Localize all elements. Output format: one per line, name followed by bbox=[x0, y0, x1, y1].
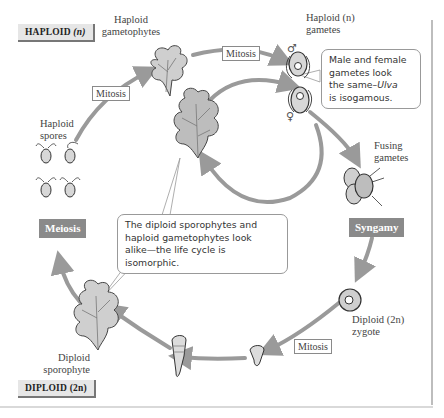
label-line: Haploid (n) bbox=[306, 12, 355, 24]
small-germling-icon bbox=[250, 346, 264, 366]
haploid-region-tag: HAPLOID (n) bbox=[18, 24, 95, 42]
callout-line: alike—the life cycle is isomorphic. bbox=[125, 244, 280, 269]
process-meiosis: Meiosis bbox=[39, 219, 86, 238]
arrow-germling-growth bbox=[180, 357, 245, 359]
callout-line: the same–Ulva bbox=[329, 79, 413, 92]
label-diploid-sporophyte: Diploid sporophyte bbox=[30, 352, 90, 376]
gametophyte-thallus-icon bbox=[151, 46, 187, 96]
label-line: Haploid bbox=[94, 14, 168, 26]
label-haploid-spores: Haploid spores bbox=[40, 118, 74, 142]
label-line: gametes bbox=[306, 24, 355, 36]
label-line: Haploid bbox=[40, 118, 74, 130]
haploid-label: HAPLOID bbox=[25, 27, 71, 37]
label-line: Diploid bbox=[30, 352, 90, 364]
process-mitosis-bottom: Mitosis bbox=[294, 339, 332, 354]
callout-italic-genus: Ulva bbox=[377, 79, 398, 90]
label-line: gametophytes bbox=[94, 26, 168, 38]
label-line: gametes bbox=[374, 152, 408, 164]
process-mitosis-left: Mitosis bbox=[92, 86, 130, 101]
zygote-icon bbox=[339, 289, 361, 311]
diploid-region-tag: DIPLOID (2n) bbox=[18, 380, 96, 398]
callout-isomorphic: The diploid sporophytes and haploid game… bbox=[117, 214, 288, 274]
callout-line: gametes look bbox=[329, 67, 413, 80]
callout-line: is isogamous. bbox=[329, 92, 413, 105]
label-haploid-gametes: Haploid (n) gametes bbox=[306, 12, 355, 36]
process-syngamy: Syngamy bbox=[349, 218, 404, 237]
callout-line: Male and female bbox=[329, 54, 413, 67]
label-line: Diploid (2n) bbox=[352, 314, 404, 326]
haploid-symbol: (n) bbox=[73, 27, 85, 37]
large-germling-icon bbox=[172, 336, 186, 377]
sporophyte-thallus-icon bbox=[74, 280, 118, 350]
callout-line: haploid gametophytes look bbox=[125, 232, 280, 245]
fusing-gametes-icon bbox=[344, 168, 384, 206]
haploid-spores-icon bbox=[36, 142, 80, 197]
arrow-to-zygote bbox=[360, 238, 372, 272]
arrow-to-fusing bbox=[310, 112, 355, 158]
label-diploid-zygote: Diploid (2n) zygote bbox=[352, 314, 404, 338]
label-line: zygote bbox=[352, 326, 404, 338]
process-mitosis-top: Mitosis bbox=[222, 46, 260, 61]
callout-line: The diploid sporophytes and bbox=[125, 219, 280, 232]
callout-isomorphic-pointer-top bbox=[162, 158, 180, 215]
male-symbol-icon: ♂ bbox=[287, 42, 297, 55]
diploid-label: DIPLOID bbox=[25, 383, 67, 393]
label-line: sporophyte bbox=[30, 364, 90, 376]
arrow-inner-loop-bottom bbox=[205, 125, 322, 202]
arrow-to-sporophyte bbox=[112, 310, 170, 348]
callout-isogamy: Male and female gametes look the same–Ul… bbox=[321, 49, 421, 109]
label-haploid-gametophytes: Haploid gametophytes bbox=[94, 14, 168, 38]
diploid-symbol: (2n) bbox=[70, 383, 87, 393]
label-fusing-gametes: Fusing gametes bbox=[374, 140, 408, 164]
label-line: Fusing bbox=[374, 140, 408, 152]
arrow-mitosis-left bbox=[76, 72, 148, 140]
arrow-to-meiosis bbox=[60, 262, 80, 302]
female-symbol-icon: ♀ bbox=[286, 110, 294, 123]
arrow-inner-loop-top bbox=[210, 80, 290, 100]
label-line: spores bbox=[40, 130, 74, 142]
callout-text: the same– bbox=[329, 79, 377, 90]
